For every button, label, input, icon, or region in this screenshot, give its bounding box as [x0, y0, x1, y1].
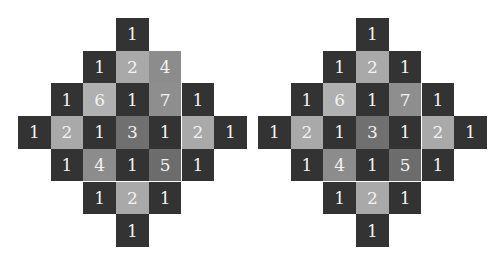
grid-cell: 1	[18, 116, 51, 149]
grid-cell: 5	[389, 149, 422, 182]
grid-cell: 1	[389, 116, 422, 149]
grid-cell: 2	[422, 116, 455, 149]
grid-cell: 1	[83, 182, 116, 215]
grid-cell: 2	[182, 116, 215, 149]
grid-cell: 2	[116, 182, 149, 215]
grid-cell: 1	[116, 149, 149, 182]
grid-cell: 1	[291, 149, 324, 182]
grid-cell: 7	[389, 83, 422, 116]
grid-cell: 1	[258, 116, 291, 149]
grid-cell: 1	[389, 182, 422, 215]
grid-cell: 1	[116, 83, 149, 116]
grid-cell: 2	[116, 51, 149, 84]
grid-cell: 1	[182, 149, 215, 182]
grid-cell: 1	[454, 116, 487, 149]
grid-cell: 1	[149, 116, 182, 149]
grid-cell: 1	[116, 214, 149, 247]
grid-cell: 7	[149, 83, 182, 116]
grid-cell: 2	[356, 182, 389, 215]
grid-cell: 3	[116, 116, 149, 149]
diamond-grid-left: 1124161711213121141511211	[18, 18, 247, 247]
grid-cell: 1	[323, 116, 356, 149]
grid-cell: 5	[149, 149, 182, 182]
grid-cell: 2	[356, 51, 389, 84]
grid-cell: 1	[149, 182, 182, 215]
grid-cell: 1	[422, 83, 455, 116]
grid-cell: 1	[83, 116, 116, 149]
grid-cell: 1	[83, 51, 116, 84]
grid-cell: 2	[51, 116, 84, 149]
grid-cell: 4	[83, 149, 116, 182]
grid-cell: 1	[356, 18, 389, 51]
grid-cell: 4	[323, 149, 356, 182]
grid-cell: 1	[323, 182, 356, 215]
grid-cell: 1	[116, 18, 149, 51]
grid-cell: 6	[83, 83, 116, 116]
grid-cell: 1	[422, 149, 455, 182]
grid-cell: 1	[323, 51, 356, 84]
grid-cell: 3	[356, 116, 389, 149]
grid-cell: 1	[51, 83, 84, 116]
grid-cell: 1	[356, 149, 389, 182]
grid-cell: 4	[149, 51, 182, 84]
diamond-grid-right: 1121161711213121141511211	[258, 18, 487, 247]
grid-cell: 1	[291, 83, 324, 116]
grid-cell: 1	[356, 214, 389, 247]
grid-cell: 1	[389, 51, 422, 84]
grid-cell: 1	[356, 83, 389, 116]
grid-cell: 2	[291, 116, 324, 149]
grid-cell: 1	[51, 149, 84, 182]
grid-cell: 1	[214, 116, 247, 149]
grid-cell: 1	[182, 83, 215, 116]
grid-cell: 6	[323, 83, 356, 116]
